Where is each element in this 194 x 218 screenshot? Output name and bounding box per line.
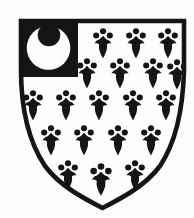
crescent-inner-void — [38, 24, 61, 47]
canton — [19, 19, 78, 77]
coat-of-arms — [0, 0, 194, 218]
shield-svg — [0, 0, 194, 218]
